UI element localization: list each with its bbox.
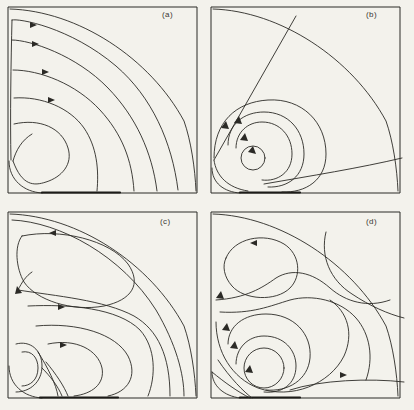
panel-d-arrow-2: [216, 291, 224, 299]
panel-c: (c): [8, 212, 197, 398]
panel-c-corner-eddy-2: [22, 352, 38, 386]
panel-d-upper-vortex: [224, 238, 298, 298]
panel-a-arrow-2: [32, 41, 39, 47]
panel-a-streamline-5: [13, 122, 69, 184]
panel-b-label: (b): [366, 10, 377, 19]
panel-b-arrow-3: [240, 133, 248, 141]
panel-d-arrow-1: [250, 240, 257, 246]
panel-b-chord-upper: [214, 16, 296, 160]
panel-a-streamline-3: [13, 70, 134, 191]
panel-a-label: (a): [162, 10, 173, 19]
panel-a-frame-right: [8, 7, 197, 193]
panel-c-lower-loop-1: [36, 325, 132, 396]
panel-d-frame-right: [211, 212, 400, 398]
panel-b-frame: [211, 7, 400, 193]
panel-d-converge-1: [212, 372, 250, 398]
panel-d-arrow-3: [222, 323, 230, 331]
panel-a: (a): [8, 7, 197, 193]
panel-a-inner-circle: [9, 161, 42, 193]
panel-d-separatrix-2: [220, 298, 370, 380]
panel-a-streamline-4: [14, 98, 98, 191]
panel-b-frame-right: [211, 7, 400, 193]
panel-d-arrow-6: [340, 372, 347, 378]
panel-a-streamline-1b: [11, 20, 12, 160]
panel-c-arrow-2: [15, 286, 22, 294]
panel-b-spiral-3: [236, 122, 292, 180]
panel-c-label: (c): [160, 217, 171, 226]
panel-d-chord-lower: [290, 380, 404, 390]
panel-d-arrow-4: [230, 341, 238, 349]
streamline-figure: (a): [0, 0, 414, 410]
panel-a-arrow-4: [48, 97, 55, 103]
panel-c-converge-1: [42, 368, 62, 396]
figure-canvas: (a): [0, 0, 414, 410]
panel-b-spiral-1: [214, 100, 326, 192]
panel-d-lower-loop-2: [228, 314, 310, 390]
panel-b-inner-circle: [212, 168, 240, 193]
panel-b: (b): [211, 7, 402, 193]
panel-a-corner-line-1: [13, 134, 32, 161]
panel-d: (d): [211, 212, 404, 398]
panel-a-streamline-2: [12, 40, 157, 191]
panel-c-arrow-1: [49, 230, 56, 236]
panel-b-chord-right: [264, 158, 402, 184]
panel-c-upper-vortex: [17, 234, 134, 308]
panel-d-arrow-5: [245, 365, 253, 373]
panel-a-arrow-3: [42, 69, 49, 75]
panel-a-frame: [8, 7, 197, 193]
panel-d-separatrix: [216, 273, 390, 304]
panel-b-arrow-4: [248, 146, 256, 154]
panel-d-label: (d): [366, 217, 377, 226]
panel-b-outer-arc: [213, 9, 398, 191]
panel-d-lower-loop-3: [236, 336, 296, 392]
panel-d-frame: [211, 212, 400, 398]
